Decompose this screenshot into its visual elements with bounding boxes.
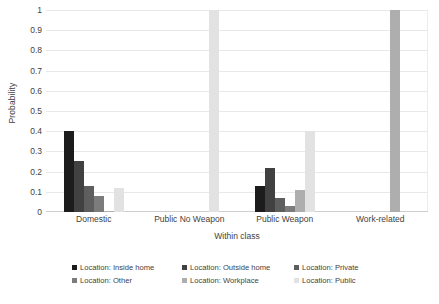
x-axis-tick-labels: DomesticPublic No WeaponPublic WeaponWor… (46, 214, 428, 230)
legend-label: Location: Workplace (190, 276, 259, 285)
bar[interactable] (265, 168, 275, 212)
legend-label: Location: Private (302, 263, 359, 272)
y-axis-tick-0.5: 0.5 (16, 106, 42, 116)
bar[interactable] (114, 188, 124, 212)
legend-item-location-public[interactable]: Location: Public (294, 276, 372, 285)
x-axis-tick-public-weapon: Public Weapon (256, 214, 313, 224)
x-axis-title: Within class (46, 231, 428, 241)
legend-item-location-inside-home[interactable]: Location: Inside home (72, 263, 182, 272)
legend-row: Location: OtherLocation: WorkplaceLocati… (72, 274, 372, 287)
legend-swatch-icon (294, 265, 299, 270)
chart-legend: Location: Inside homeLocation: Outside h… (72, 261, 372, 287)
x-axis-tick-public-no-weapon: Public No Weapon (154, 214, 224, 224)
y-axis-tick-0: 0 (16, 207, 42, 217)
legend-row: Location: Inside homeLocation: Outside h… (72, 261, 372, 274)
bar[interactable] (275, 198, 285, 212)
legend-swatch-icon (72, 278, 77, 283)
y-axis-tick-0.8: 0.8 (16, 45, 42, 55)
bar-chart: Probability 00.10.20.30.40.50.60.70.80.9… (0, 0, 439, 304)
bar[interactable] (305, 131, 315, 212)
legend-label: Location: Outside home (190, 263, 270, 272)
bar[interactable] (84, 186, 94, 212)
bar[interactable] (209, 10, 219, 212)
bar-group-domestic (46, 10, 142, 212)
bar[interactable] (94, 196, 104, 212)
plot-area (46, 10, 428, 212)
bar[interactable] (390, 10, 400, 212)
y-axis-tick-1: 1 (16, 5, 42, 15)
bar[interactable] (64, 131, 74, 212)
legend-item-location-workplace[interactable]: Location: Workplace (182, 276, 294, 285)
bar[interactable] (285, 206, 295, 212)
legend-label: Location: Public (302, 276, 356, 285)
y-axis-tick-0.9: 0.9 (16, 25, 42, 35)
legend-label: Location: Other (80, 276, 132, 285)
x-axis-tick-domestic: Domestic (76, 214, 111, 224)
bar[interactable] (255, 186, 265, 212)
legend-swatch-icon (182, 265, 187, 270)
legend-swatch-icon (72, 265, 77, 270)
bar-group-public-weapon (237, 10, 333, 212)
y-axis-tick-0.4: 0.4 (16, 126, 42, 136)
legend-label: Location: Inside home (80, 263, 154, 272)
y-axis-tick-0.3: 0.3 (16, 146, 42, 156)
bar[interactable] (104, 211, 114, 212)
y-axis-tick-labels: 00.10.20.30.40.50.60.70.80.91 (16, 10, 42, 212)
legend-swatch-icon (294, 278, 299, 283)
y-axis-tick-0.7: 0.7 (16, 66, 42, 76)
bar-group-public-no-weapon (142, 10, 238, 212)
x-axis-tick-work-related: Work-related (356, 214, 405, 224)
bar-group-work-related (333, 10, 429, 212)
bar[interactable] (295, 190, 305, 212)
legend-item-location-outside-home[interactable]: Location: Outside home (182, 263, 294, 272)
y-axis-tick-0.6: 0.6 (16, 86, 42, 96)
bar[interactable] (74, 161, 84, 213)
legend-swatch-icon (182, 278, 187, 283)
y-axis-tick-0.1: 0.1 (16, 187, 42, 197)
legend-item-location-other[interactable]: Location: Other (72, 276, 182, 285)
legend-item-location-private[interactable]: Location: Private (294, 263, 372, 272)
y-axis-tick-0.2: 0.2 (16, 167, 42, 177)
